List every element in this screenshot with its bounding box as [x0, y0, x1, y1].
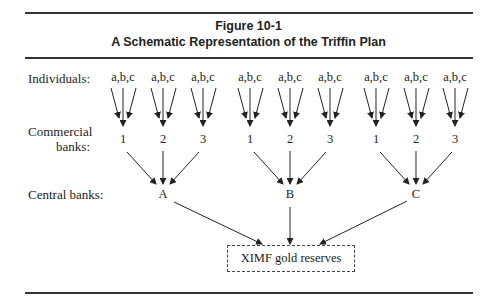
flow-arrows	[0, 0, 497, 305]
bottom-rule	[25, 292, 473, 294]
